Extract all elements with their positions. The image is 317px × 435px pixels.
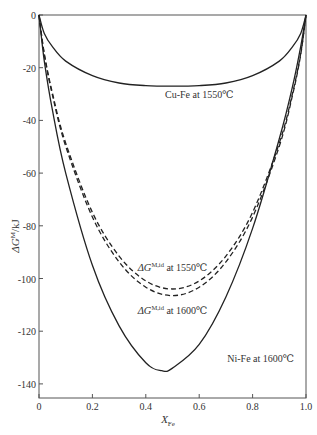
curve-annotation: Cu-Fe at 1550℃: [165, 89, 233, 100]
y-tick-label: -20: [23, 63, 36, 74]
x-axis-label: XFe: [160, 413, 175, 428]
y-label-unit: /kJ: [9, 219, 21, 233]
y-tick-label: -120: [18, 326, 36, 337]
annotations: Cu-Fe at 1550℃ΔGM,id at 1550℃ΔGM,id at 1…: [137, 89, 294, 364]
curve-annotation: Ni-Fe at 1600℃: [227, 353, 294, 364]
y-tick-label: -40: [23, 115, 36, 126]
curve-ni-fe-at-1600-: [39, 15, 306, 371]
x-tick-label: 0.2: [86, 401, 99, 412]
x-tick-label: 0.4: [140, 401, 153, 412]
x-tick-label: 1.0: [300, 401, 313, 412]
x-tick-label: 0: [37, 401, 42, 412]
x-tick-label: 0.6: [193, 401, 206, 412]
y-tick-label: -60: [23, 168, 36, 179]
curves: [39, 15, 306, 371]
curve-annotation: ΔGM,id at 1600℃: [137, 304, 208, 316]
y-tick-label: 0: [31, 10, 36, 21]
curve--g-m-id-at-1550-: [39, 15, 306, 289]
y-tick-label: -80: [23, 221, 36, 232]
curve-annotation: ΔGM,id at 1550℃: [137, 261, 208, 273]
x-axis-ticks: 00.20.40.60.81.0: [37, 394, 313, 412]
y-tick-label: -100: [18, 274, 36, 285]
y-label-main: ΔG: [9, 238, 21, 253]
axes-frame: [39, 15, 306, 398]
x-tick-label: 0.8: [246, 401, 259, 412]
curve--g-m-id-at-1600-: [39, 15, 306, 296]
plot-area: [39, 15, 306, 398]
gibbs-mixing-chart: 0-20-40-60-80-100-120-140 00.20.40.60.81…: [0, 0, 317, 435]
y-axis-label: ΔGM/kJ: [9, 219, 21, 254]
y-tick-label: -140: [18, 379, 36, 390]
curve-cu-fe-at-1550-: [39, 15, 306, 86]
x-label-sub: Fe: [168, 420, 175, 428]
